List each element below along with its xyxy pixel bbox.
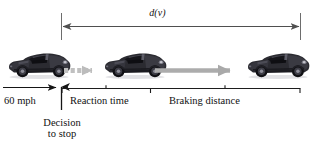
car-start	[9, 54, 70, 79]
braking-distance-label: Braking distance	[169, 95, 240, 106]
decision-to-stop-label: Decision to stop	[27, 117, 97, 139]
speed-label: 60 mph	[4, 95, 36, 106]
dimension-label-dv: d(v)	[0, 8, 315, 19]
decision-label-line-2: to stop	[27, 128, 97, 139]
stopping-distance-figure: d(v) 60 mph Reaction time Braking distan…	[0, 0, 315, 150]
car-after-reaction	[105, 54, 166, 79]
car-stopped	[248, 54, 309, 79]
decision-label-line-1: Decision	[27, 117, 97, 128]
segment-brace	[62, 85, 301, 93]
reaction-time-label: Reaction time	[70, 95, 129, 106]
